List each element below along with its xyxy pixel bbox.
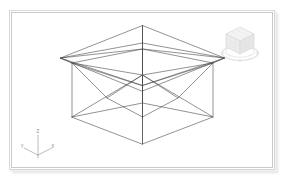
box-top-rim	[72, 49, 213, 86]
axis-triad: Z Y X	[18, 127, 60, 161]
axis-triad-icon: Z Y X	[18, 127, 60, 161]
box-vertical-edges	[72, 49, 213, 144]
box-bottom-rim	[72, 103, 213, 144]
3d-modeling-viewport[interactable]: Z Y X	[12, 13, 272, 167]
inverted-pyramid-funnel	[72, 49, 213, 117]
y-axis-line	[24, 148, 38, 155]
roof-hip-ridges	[61, 26, 225, 92]
z-axis-label: Z	[37, 129, 40, 134]
y-axis-label: Y	[21, 144, 24, 149]
cad-application-window: Z Y X	[0, 0, 284, 189]
lower-diagonals	[72, 75, 213, 117]
view-cube-icon[interactable]	[214, 21, 266, 67]
roof-eave-outline	[61, 43, 225, 91]
x-axis-label: X	[51, 144, 54, 149]
x-axis-line	[38, 148, 52, 155]
view-cube-widget[interactable]	[214, 21, 266, 67]
roof-fascia-connectors	[61, 43, 225, 91]
